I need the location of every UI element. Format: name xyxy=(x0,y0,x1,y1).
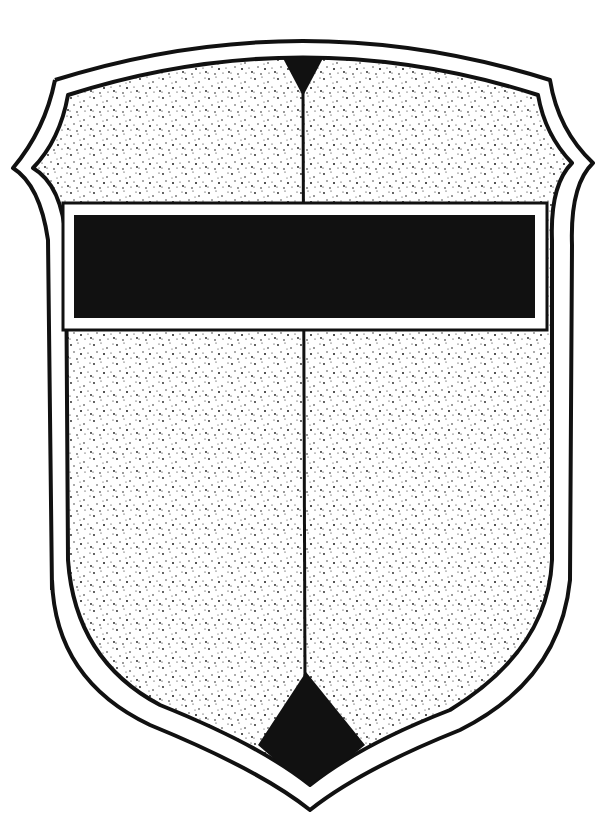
shield-illustration xyxy=(0,0,606,831)
fess-bar xyxy=(63,203,547,330)
pale-line xyxy=(303,90,305,680)
shield-svg xyxy=(0,0,606,831)
